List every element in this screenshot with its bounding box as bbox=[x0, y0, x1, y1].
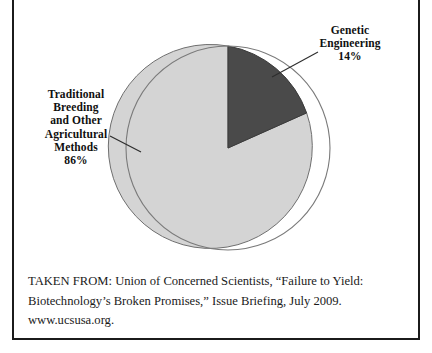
callout-traditional-breeding-line-1: Traditional bbox=[22, 88, 130, 101]
callout-traditional-breeding: Traditional Breeding and Other Agricultu… bbox=[22, 88, 130, 167]
callout-traditional-breeding-value: 86% bbox=[22, 154, 130, 167]
source-caption-line-1: TAKEN FROM: Union of Concerned Scientist… bbox=[28, 272, 406, 292]
callout-traditional-breeding-line-3: and Other bbox=[22, 114, 130, 127]
callout-genetic-engineering: Genetic Engineering 14% bbox=[296, 24, 404, 64]
source-caption: TAKEN FROM: Union of Concerned Scientist… bbox=[28, 272, 406, 331]
callout-genetic-engineering-line-1: Genetic bbox=[296, 24, 404, 37]
callout-traditional-breeding-line-2: Breeding bbox=[22, 101, 130, 114]
callout-traditional-breeding-line-5: Methods bbox=[22, 141, 130, 154]
pie-chart-area: Genetic Engineering 14% Traditional Bree… bbox=[0, 0, 432, 268]
callout-traditional-breeding-line-4: Agricultural bbox=[22, 128, 130, 141]
source-caption-line-3: www.ucsusa.org. bbox=[28, 311, 406, 331]
callout-genetic-engineering-line-2: Engineering bbox=[296, 37, 404, 50]
callout-genetic-engineering-value: 14% bbox=[296, 50, 404, 63]
source-caption-line-2: Biotechnology’s Broken Promises,” Issue … bbox=[28, 292, 406, 312]
